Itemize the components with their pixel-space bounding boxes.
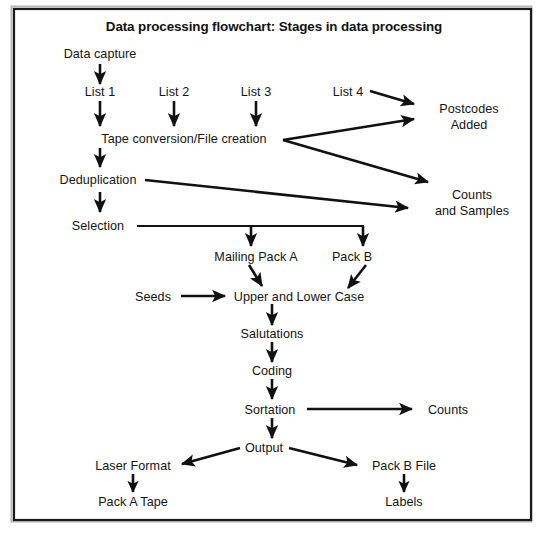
node-pack-b-file: Pack B File: [372, 459, 436, 473]
node-coding: Coding: [252, 364, 292, 378]
node-upper-and-lower-case: Upper and Lower Case: [234, 290, 365, 304]
node-seeds: Seeds: [135, 290, 171, 304]
node-postcodes-added-line2: Added: [451, 118, 488, 132]
node-selection: Selection: [72, 219, 124, 233]
flowchart-canvas: Data processing flowchart: Stages in dat…: [0, 0, 547, 537]
node-salutations: Salutations: [241, 327, 304, 341]
figure-title: Data processing flowchart: Stages in dat…: [106, 19, 442, 34]
node-counts-and-samples-line1: Counts: [452, 188, 492, 202]
node-pack-b: Pack B: [332, 250, 372, 264]
node-output: Output: [245, 441, 284, 455]
node-list-1: List 1: [85, 85, 115, 99]
node-list-4: List 4: [333, 85, 363, 99]
node-deduplication: Deduplication: [60, 173, 137, 187]
node-list-2: List 2: [159, 85, 189, 99]
node-data-capture: Data capture: [64, 47, 137, 61]
node-counts-and-samples-line2: and Samples: [435, 204, 509, 218]
node-list-3: List 3: [241, 85, 271, 99]
node-sortation: Sortation: [245, 403, 296, 417]
flowchart-figure: Data processing flowchart: Stages in dat…: [0, 0, 547, 537]
node-tape-conversion: Tape conversion/File creation: [101, 132, 266, 146]
node-mailing-pack-a: Mailing Pack A: [214, 250, 298, 264]
node-laser-format: Laser Format: [95, 459, 171, 473]
node-pack-a-tape: Pack A Tape: [98, 495, 168, 509]
node-postcodes-added-line1: Postcodes: [439, 102, 498, 116]
node-labels: Labels: [385, 495, 422, 509]
node-counts: Counts: [428, 403, 468, 417]
